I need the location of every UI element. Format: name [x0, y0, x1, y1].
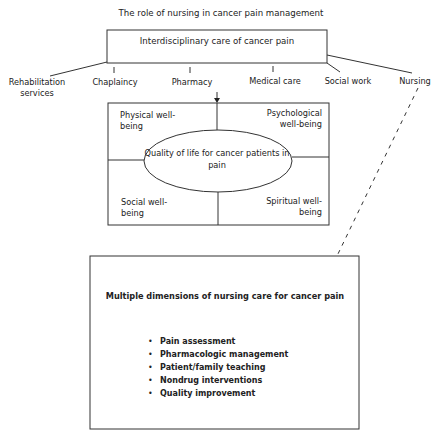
- discipline-pharmacy: Pharmacy: [162, 77, 222, 88]
- interdisciplinary-box: [107, 30, 327, 63]
- list-item: Patient/family teaching: [148, 361, 288, 374]
- list-item: Quality improvement: [148, 387, 288, 400]
- discipline-nursing: Nursing: [390, 76, 440, 87]
- quadrant-social: Social well-being: [121, 197, 181, 219]
- discipline-chaplaincy: Chaplaincy: [85, 77, 145, 88]
- quadrant-physical: Physical well-being: [120, 110, 180, 132]
- nursing-box-title: Multiple dimensions of nursing care for …: [100, 290, 350, 303]
- quadrant-spiritual: Spiritual well-being: [262, 196, 322, 218]
- nursing-dimensions-list: Pain assessment Pharmacologic management…: [148, 335, 288, 400]
- diagram-title: The role of nursing in cancer pain manag…: [0, 8, 442, 18]
- quadrant-psychological: Psychological well-being: [252, 108, 322, 130]
- discipline-social-work: Social work: [316, 76, 380, 87]
- list-item: Pain assessment: [148, 335, 288, 348]
- discipline-rehabilitation: Rehabilitation services: [2, 77, 72, 99]
- list-item: Nondrug interventions: [148, 374, 288, 387]
- discipline-medical-care: Medical care: [240, 76, 310, 87]
- arrow-down-icon: [214, 98, 220, 103]
- interdisciplinary-label: Interdisciplinary care of cancer pain: [108, 36, 326, 46]
- quality-of-life-label: Quality of life for cancer patients in p…: [142, 147, 292, 171]
- list-item: Pharmacologic management: [148, 348, 288, 361]
